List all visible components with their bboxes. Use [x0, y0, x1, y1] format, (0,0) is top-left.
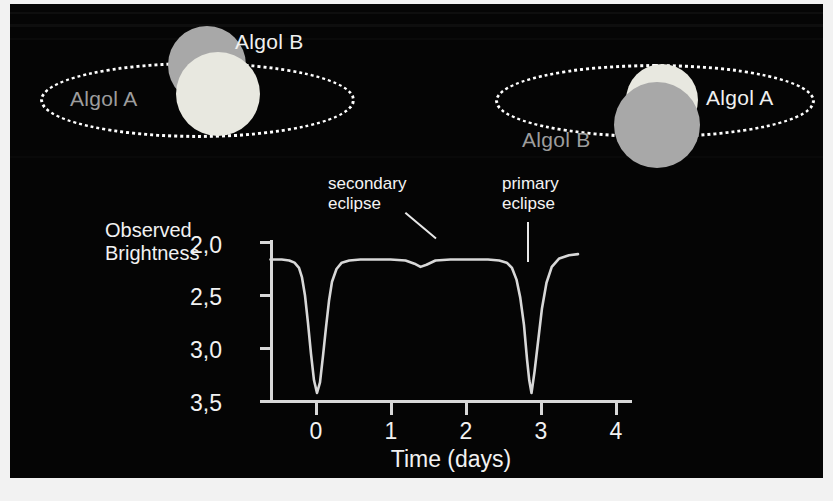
x-tick-1	[390, 403, 393, 415]
y-axis-line	[270, 240, 273, 402]
x-axis-line	[270, 400, 632, 403]
secondary-eclipse-line2: eclipse	[328, 194, 381, 213]
y-tick-label-3-0: 3,0	[160, 337, 222, 364]
secondary-eclipse-leader	[405, 212, 437, 239]
y-tick-2-0	[260, 241, 271, 244]
x-tick-label-1: 1	[361, 418, 421, 445]
dark-panel: Algol B Algol A Algol A Algol B Observed…	[10, 4, 823, 478]
y-tick-label-3-5: 3,5	[160, 390, 222, 417]
x-tick-label-3: 3	[511, 418, 571, 445]
x-tick-0	[315, 403, 318, 415]
y-tick-2-5	[260, 294, 271, 297]
primary-eclipse-annotation: primary eclipse	[502, 174, 559, 214]
x-axis-title: Time (days)	[306, 446, 596, 473]
primary-eclipse-leader	[527, 222, 529, 262]
x-tick-2	[465, 403, 468, 415]
y-tick-3-5	[260, 400, 271, 403]
x-tick-label-2: 2	[436, 418, 496, 445]
light-curve-chart: Observed Brightness 2,0 2,5 3,0 3,5 0	[10, 4, 823, 478]
x-tick-4	[615, 403, 618, 415]
secondary-eclipse-line1: secondary	[328, 174, 406, 193]
y-tick-label-2-5: 2,5	[160, 284, 222, 311]
x-tick-3	[540, 403, 543, 415]
primary-eclipse-line2: eclipse	[502, 194, 555, 213]
x-tick-label-0: 0	[286, 418, 346, 445]
y-tick-3-0	[260, 347, 271, 350]
secondary-eclipse-annotation: secondary eclipse	[328, 174, 406, 214]
y-tick-label-2-0: 2,0	[160, 232, 222, 259]
x-tick-label-4: 4	[586, 418, 646, 445]
primary-eclipse-line1: primary	[502, 174, 559, 193]
figure-root: Algol B Algol A Algol A Algol B Observed…	[0, 0, 833, 501]
